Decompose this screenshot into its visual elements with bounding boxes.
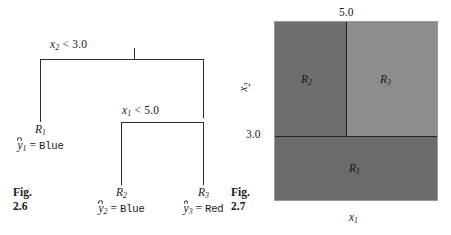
leaf-node-r2: R2 y2=Blue — [81, 185, 162, 217]
region-r3-area — [346, 22, 437, 136]
leaf-r2-name: R2 — [81, 185, 162, 201]
region-r2-label: R2 — [301, 73, 312, 87]
region-r3-label: R3 — [380, 73, 391, 87]
partition-plot-area: R2 R3 R1 — [275, 22, 437, 200]
leaf-r3-value: Red — [205, 203, 223, 215]
inner-split-variable-subscript: 1 — [127, 109, 131, 118]
region-partition-figure: Fig. 2.7 5.0 3.0 x2 x1 R2 R3 R1 — [232, 0, 451, 235]
figure-caption-2-7-line1: Fig. — [231, 186, 250, 200]
y-axis-label: x2 — [237, 83, 251, 92]
x1-split-divider — [346, 22, 347, 137]
inner-left-branch — [121, 122, 122, 185]
figure-caption-2-6: Fig. 2.6 — [13, 186, 32, 213]
root-split-relation: < 3.0 — [62, 38, 87, 50]
inner-horizontal-connector — [121, 122, 203, 123]
region-r1-label: R1 — [349, 162, 360, 176]
figure-caption-2-7: Fig. 2.7 — [231, 186, 250, 213]
leaf-r2-prediction: y2=Blue — [81, 201, 162, 217]
inner-split-label: x1< 5.0 — [122, 104, 159, 118]
root-horizontal-connector — [40, 59, 203, 60]
leaf-r2-yhat: y — [98, 201, 103, 216]
x2-split-tick-label: 3.0 — [246, 128, 260, 140]
leaf-r3-yhat: y — [184, 201, 189, 216]
root-right-branch — [203, 59, 204, 118]
figure-caption-2-6-line1: Fig. — [13, 186, 32, 200]
root-split-variable-subscript: 2 — [55, 43, 59, 52]
inner-split-relation: < 5.0 — [134, 104, 159, 116]
inner-right-branch — [203, 122, 204, 185]
x1-split-tick-label: 5.0 — [339, 6, 353, 18]
leaf-r1-name: R1 — [0, 122, 81, 138]
leaf-r1-yhat: y — [17, 138, 22, 153]
root-split-label: x2< 3.0 — [50, 38, 87, 52]
figure-caption-2-7-line2: 2.7 — [231, 200, 250, 214]
leaf-node-r1: R1 y1=Blue — [0, 122, 81, 154]
figure-caption-2-6-line2: 2.6 — [13, 200, 32, 214]
leaf-r1-prediction: y1=Blue — [0, 138, 81, 154]
leaf-r1-value: Blue — [39, 140, 64, 152]
leaf-r2-value: Blue — [120, 203, 145, 215]
root-left-branch — [40, 59, 41, 122]
x-axis-label: x1 — [349, 211, 358, 225]
decision-tree-figure: x2< 3.0 x1< 5.0 R1 y1=Blue R2 y2=Blue — [0, 0, 232, 235]
x2-split-divider — [275, 136, 437, 137]
